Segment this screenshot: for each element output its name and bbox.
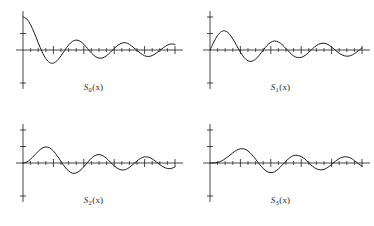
plot-panel-s3: S3(x)	[187, 113, 374, 226]
data-curve	[210, 31, 362, 62]
caption-argument: (x)	[92, 195, 103, 205]
caption-argument: (x)	[279, 195, 290, 205]
plot-svg-s2	[0, 113, 187, 205]
plot-svg-s1	[187, 0, 374, 92]
caption-argument: (x)	[279, 82, 290, 92]
data-curve	[23, 147, 175, 173]
plot-svg-s0	[0, 0, 187, 92]
data-curve	[210, 149, 362, 173]
plot-svg-s3	[187, 113, 374, 205]
plot-panel-s2: S2(x)	[0, 113, 187, 226]
plot-caption-s0: S0(x)	[0, 82, 187, 93]
plot-caption-s3: S3(x)	[187, 195, 374, 206]
data-curve	[23, 17, 175, 63]
plot-panel-s1: S1(x)	[187, 0, 374, 113]
plot-panel-s0: S0(x)	[0, 0, 187, 113]
plot-caption-s2: S2(x)	[0, 195, 187, 206]
plot-caption-s1: S1(x)	[187, 82, 374, 93]
bessel-function-figure: S0(x) S1(x) S2(x) S3(x)	[0, 0, 374, 226]
caption-argument: (x)	[92, 82, 103, 92]
